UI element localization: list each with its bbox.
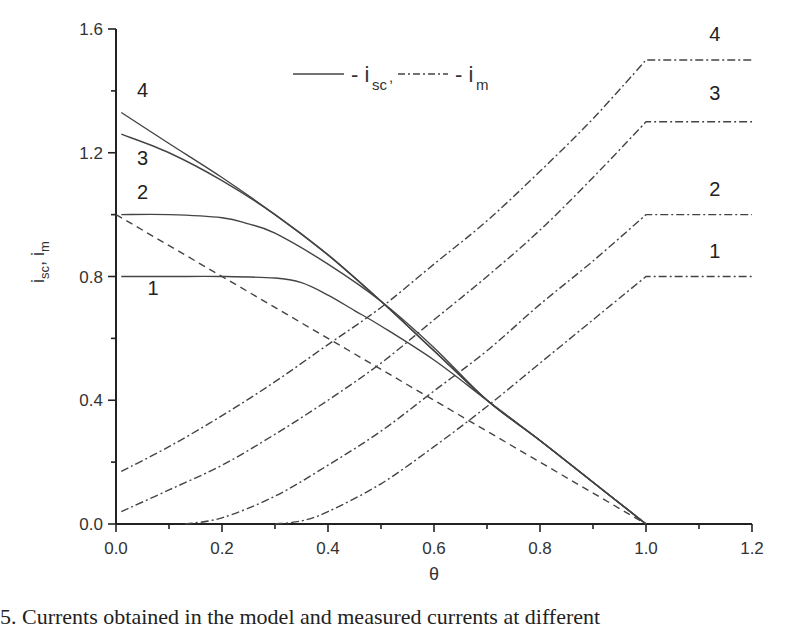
y-tick-label: 0.4 — [79, 391, 103, 410]
curve-number-label: 3 — [709, 82, 720, 104]
legend-im-label: - i — [455, 62, 473, 87]
y-tick-label: 1.2 — [79, 144, 103, 163]
curve-number-label: 2 — [137, 181, 148, 203]
curve-im-1 — [275, 277, 752, 525]
curve-number-label: 2 — [709, 178, 720, 200]
curve-number-label: 4 — [137, 79, 148, 101]
curve-number-label: 1 — [148, 277, 159, 299]
curve-isc-3 — [121, 134, 646, 524]
legend-isc-comma: , — [389, 68, 393, 85]
curve-number-label: 1 — [709, 240, 720, 262]
curve-isc-4 — [121, 113, 646, 524]
x-tick-label: 1.2 — [740, 539, 764, 558]
plot-curves — [116, 60, 752, 524]
curve-number-label: 3 — [137, 147, 148, 169]
x-tick-label: 0.8 — [528, 539, 552, 558]
figure-caption: 5. Currents obtained in the model and me… — [0, 604, 788, 628]
y-axis-title: isc, im — [28, 241, 52, 283]
x-tick-label: 0.6 — [422, 539, 446, 558]
axis-ticks: 0.00.20.40.60.81.01.20.00.40.81.21.6 — [79, 20, 763, 558]
curve-im-3 — [121, 122, 752, 512]
x-tick-label: 0.0 — [104, 539, 128, 558]
x-tick-label: 1.0 — [634, 539, 658, 558]
curve-isc-1 — [121, 276, 646, 524]
curve-im-4 — [121, 60, 752, 471]
legend-isc-sub: sc — [372, 76, 388, 93]
y-tick-label: 1.6 — [79, 20, 103, 39]
legend-isc-label: - i — [351, 62, 369, 87]
curve-number-label: 4 — [709, 23, 720, 45]
legend-im-sub: m — [476, 76, 489, 93]
legend: - i sc , - i m — [293, 62, 489, 93]
curve-labels: 43214321 — [137, 23, 721, 299]
x-tick-label: 0.4 — [316, 539, 340, 558]
x-axis-title: θ — [429, 564, 439, 584]
curve-im-2 — [185, 215, 752, 524]
svg-text:isc, im: isc, im — [28, 241, 52, 283]
y-tick-label: 0.0 — [79, 515, 103, 534]
x-tick-label: 0.2 — [210, 539, 234, 558]
y-tick-label: 0.8 — [79, 268, 103, 287]
